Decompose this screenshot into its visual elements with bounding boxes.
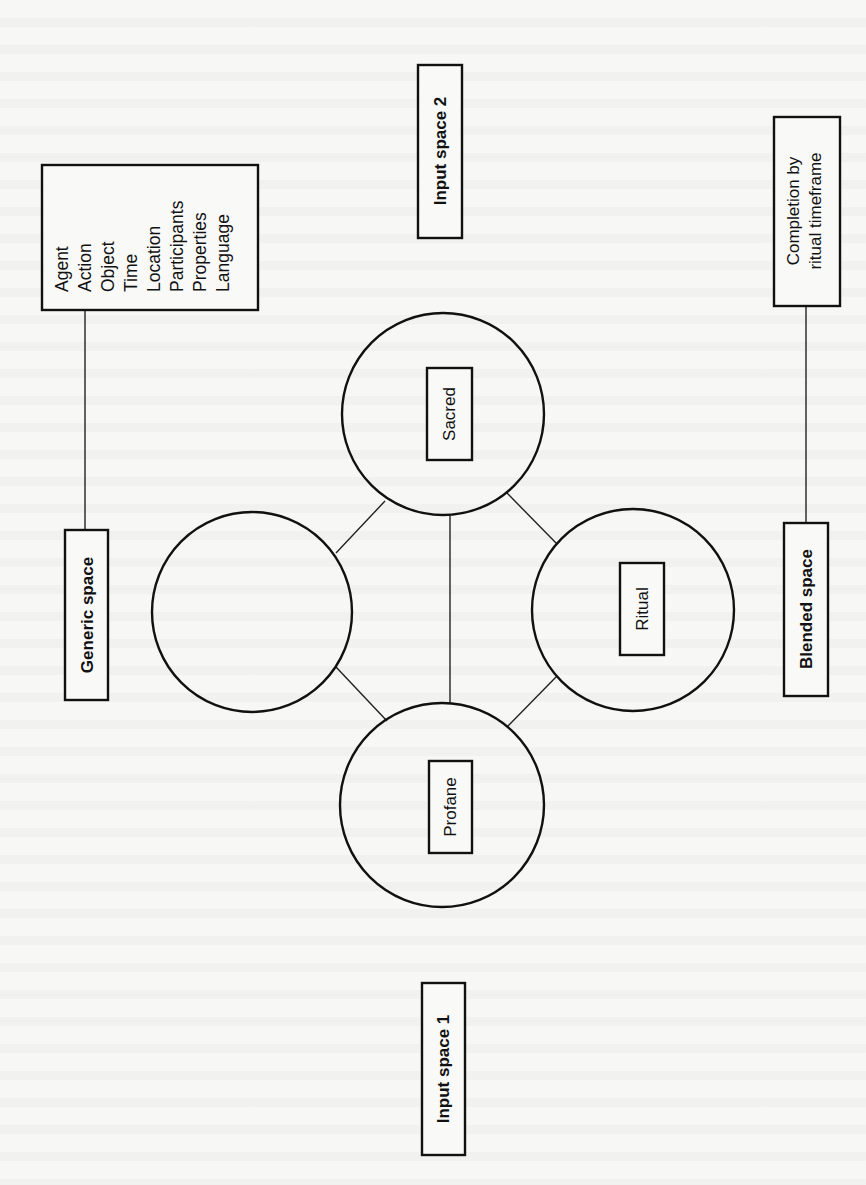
generic-circle — [152, 512, 352, 712]
emergent-structure-line-1: Completion by — [784, 156, 803, 265]
sacred-circle: Sacred — [342, 313, 544, 515]
input-space-1-box: Input space 1 — [422, 983, 465, 1155]
frame-item-action: Action — [75, 243, 95, 292]
profane-label: Profane — [441, 777, 460, 837]
diagram-page: Agent Action Object Time Location Partic… — [0, 0, 866, 1185]
emergent-structure-line-2: ritual timeframe — [806, 152, 825, 269]
blending-diagram: Agent Action Object Time Location Partic… — [0, 0, 866, 1185]
generic-space-box: Generic space — [65, 530, 108, 700]
frame-item-properties: Properties — [190, 212, 210, 292]
frame-item-agent: Agent — [52, 246, 72, 292]
ritual-circle: Ritual — [532, 509, 734, 711]
blended-space-label: Blended space — [797, 549, 816, 669]
frame-item-time: Time — [121, 254, 141, 292]
generic-space-label: Generic space — [78, 557, 97, 673]
connector-generic-to-profane — [336, 667, 387, 721]
sacred-label: Sacred — [440, 387, 459, 441]
ritual-label: Ritual — [633, 587, 652, 630]
frame-item-location: Location — [144, 226, 164, 292]
input-space-1-label: Input space 1 — [434, 1015, 453, 1124]
connector-sacred-to-ritual — [507, 493, 557, 544]
blended-space-box: Blended space — [784, 523, 828, 696]
emergent-structure-box: Completion by ritual timeframe — [774, 117, 840, 306]
connector-profane-to-ritual — [507, 676, 557, 727]
frame-item-participants: Participants — [167, 200, 187, 292]
input-space-2-box: Input space 2 — [418, 65, 462, 238]
frame-item-object: Object — [98, 241, 118, 292]
frame-elements-box: Agent Action Object Time Location Partic… — [42, 165, 258, 310]
profane-circle: Profane — [340, 703, 544, 907]
frame-item-language: Language — [213, 214, 233, 292]
input-space-2-label: Input space 2 — [431, 97, 450, 206]
connector-generic-to-sacred — [336, 501, 385, 553]
